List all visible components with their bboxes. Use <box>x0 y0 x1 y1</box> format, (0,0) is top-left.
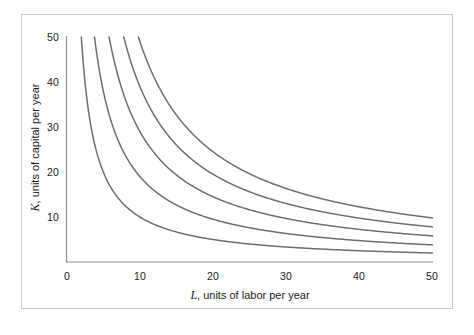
figure-panel <box>21 14 453 309</box>
chart-screenshot: 50 40 30 20 10 0 10 20 30 40 50 L, units… <box>0 0 474 335</box>
